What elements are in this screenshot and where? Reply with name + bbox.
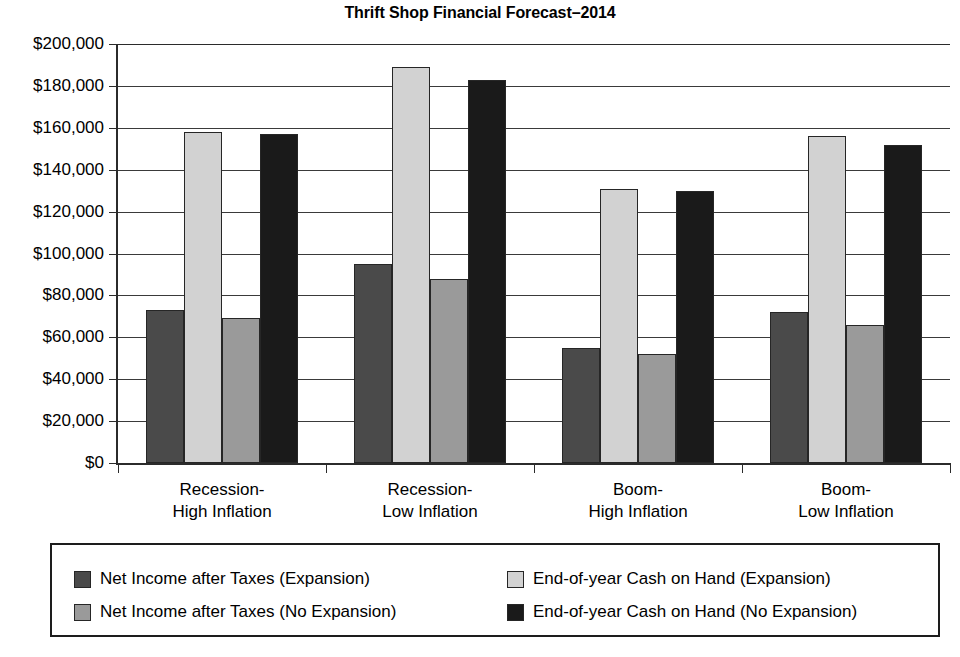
y-axis-tick bbox=[109, 379, 118, 380]
x-axis-tick bbox=[742, 463, 743, 473]
y-axis-label: $140,000 bbox=[33, 160, 104, 180]
bar bbox=[146, 310, 184, 463]
y-axis-tick bbox=[109, 463, 118, 464]
y-axis-label: $40,000 bbox=[43, 369, 104, 389]
chart-title: Thrift Shop Financial Forecast–2014 bbox=[0, 4, 960, 22]
bar bbox=[770, 312, 808, 463]
bar bbox=[430, 279, 468, 463]
x-axis-tick bbox=[326, 463, 327, 473]
y-axis-label: $60,000 bbox=[43, 327, 104, 347]
legend-label: End-of-year Cash on Hand (Expansion) bbox=[533, 569, 831, 589]
y-axis-tick bbox=[109, 86, 118, 87]
x-axis-category-label: Boom- High Inflation bbox=[588, 479, 687, 523]
x-axis-category-label: Recession- Low Inflation bbox=[382, 479, 477, 523]
legend-swatch-icon bbox=[507, 604, 524, 621]
y-axis-label: $0 bbox=[85, 453, 104, 473]
gridline bbox=[118, 86, 950, 87]
legend-swatch-icon bbox=[507, 571, 524, 588]
y-axis-tick bbox=[109, 44, 118, 45]
x-axis-category-label: Boom- Low Inflation bbox=[798, 479, 893, 523]
y-axis-tick bbox=[109, 421, 118, 422]
bar bbox=[468, 80, 506, 463]
bar bbox=[846, 325, 884, 463]
bar bbox=[222, 318, 260, 463]
legend-item[interactable]: Net Income after Taxes (Expansion) bbox=[74, 569, 370, 589]
gridline bbox=[118, 44, 950, 45]
legend-item[interactable]: Net Income after Taxes (No Expansion) bbox=[74, 602, 396, 622]
bar bbox=[884, 145, 922, 463]
legend-item[interactable]: End-of-year Cash on Hand (No Expansion) bbox=[507, 602, 857, 622]
bar bbox=[260, 134, 298, 463]
x-axis-category-label: Recession- High Inflation bbox=[172, 479, 271, 523]
legend-label: Net Income after Taxes (No Expansion) bbox=[100, 602, 396, 622]
bar bbox=[638, 354, 676, 463]
y-axis-label: $20,000 bbox=[43, 411, 104, 431]
x-axis-tick bbox=[534, 463, 535, 473]
bar bbox=[354, 264, 392, 463]
y-axis-tick bbox=[109, 337, 118, 338]
y-axis-tick bbox=[109, 170, 118, 171]
x-axis-tick bbox=[118, 463, 119, 473]
plot-area: $200,000$180,000$160,000$140,000$120,000… bbox=[116, 44, 950, 465]
y-axis-label: $160,000 bbox=[33, 118, 104, 138]
y-axis-label: $180,000 bbox=[33, 76, 104, 96]
bar bbox=[600, 189, 638, 463]
bar bbox=[676, 191, 714, 463]
bar bbox=[562, 348, 600, 463]
legend-item[interactable]: End-of-year Cash on Hand (Expansion) bbox=[507, 569, 831, 589]
bar bbox=[808, 136, 846, 463]
y-axis-label: $200,000 bbox=[33, 34, 104, 54]
y-axis-label: $80,000 bbox=[43, 285, 104, 305]
chart-legend: Net Income after Taxes (Expansion)End-of… bbox=[50, 543, 940, 637]
legend-swatch-icon bbox=[74, 604, 91, 621]
legend-swatch-icon bbox=[74, 571, 91, 588]
bar bbox=[184, 132, 222, 463]
y-axis-label: $120,000 bbox=[33, 202, 104, 222]
y-axis-label: $100,000 bbox=[33, 244, 104, 264]
y-axis-tick bbox=[109, 295, 118, 296]
y-axis-tick bbox=[109, 128, 118, 129]
y-axis-tick bbox=[109, 212, 118, 213]
gridline bbox=[118, 128, 950, 129]
legend-label: End-of-year Cash on Hand (No Expansion) bbox=[533, 602, 857, 622]
y-axis-tick bbox=[109, 254, 118, 255]
bar bbox=[392, 67, 430, 463]
x-axis-tick bbox=[950, 463, 951, 473]
legend-label: Net Income after Taxes (Expansion) bbox=[100, 569, 370, 589]
